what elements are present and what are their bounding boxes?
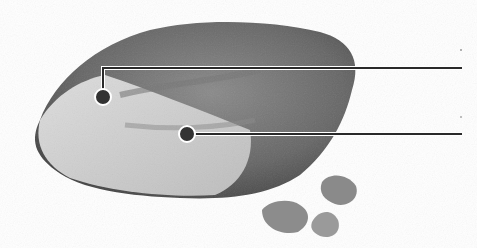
callout-2-dot xyxy=(179,126,195,142)
specimen-figure xyxy=(0,0,477,248)
specimen-body xyxy=(0,0,477,248)
speck xyxy=(460,49,462,51)
callout-1-dot xyxy=(95,89,111,105)
specimen-illustration xyxy=(0,0,477,248)
speck xyxy=(460,116,462,118)
